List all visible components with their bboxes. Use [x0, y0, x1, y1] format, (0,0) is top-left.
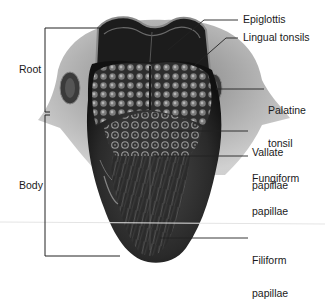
label-fungiform-line2: papillae	[252, 206, 299, 217]
label-palatine-line1: Palatine	[268, 105, 306, 116]
label-filiform-line1: Filiform	[252, 255, 288, 266]
label-epiglottis: Epiglottis	[243, 14, 286, 25]
label-filiform-line2: papillae	[252, 288, 288, 299]
label-lingual-tonsils: Lingual tonsils	[243, 32, 310, 43]
label-fungiform-line1: Fungiform	[252, 173, 299, 184]
label-root: Root	[19, 64, 41, 75]
label-filiform-papillae: Filiform papillae	[252, 233, 288, 303]
label-fungiform-papillae: Fungiform papillae	[252, 151, 299, 239]
label-body: Body	[19, 180, 43, 191]
